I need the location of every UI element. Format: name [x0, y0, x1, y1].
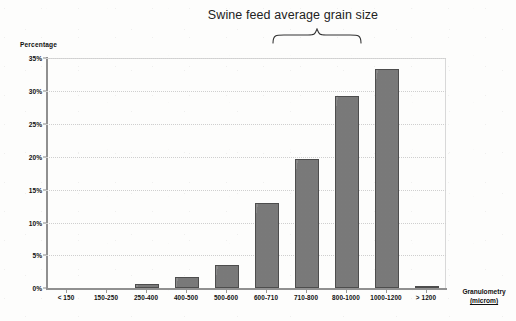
x-tick-mark [146, 290, 147, 293]
x-tick-mark [426, 290, 427, 293]
x-tick-mark [66, 290, 67, 293]
x-tick-mark [266, 290, 267, 293]
bar-slot [87, 58, 127, 288]
brace-annotation-icon [272, 28, 362, 44]
x-tick-mark [346, 290, 347, 293]
bar-series [47, 58, 446, 288]
bar-slot [407, 58, 447, 288]
bar[interactable] [135, 284, 159, 289]
x-tick-label: > 1200 [398, 294, 454, 301]
bar-slot [247, 58, 287, 288]
x-tick-mark [106, 290, 107, 293]
x-tick-mark [386, 290, 387, 293]
x-axis-title-text: Granulometry [452, 287, 516, 296]
y-axis-title: Percentage [20, 41, 57, 48]
bar[interactable] [215, 265, 239, 288]
bar-slot [287, 58, 327, 288]
x-tick-mark [306, 290, 307, 293]
chart-title: Swine feed average grain size [0, 8, 516, 22]
x-tick-mark [226, 290, 227, 293]
bar-slot [47, 58, 87, 288]
bar[interactable] [415, 286, 439, 289]
y-tick-mark [43, 255, 46, 256]
y-tick-mark [43, 189, 46, 190]
bar-slot [207, 58, 247, 288]
bar[interactable] [295, 159, 319, 289]
y-tick-mark [43, 156, 46, 157]
bar-slot [127, 58, 167, 288]
y-tick-mark [43, 222, 46, 223]
x-tick-mark [186, 290, 187, 293]
y-tick-mark [43, 90, 46, 91]
bar[interactable] [255, 203, 279, 289]
x-axis-title: Granulometry (microm) [452, 287, 516, 305]
y-tick-mark [43, 58, 46, 59]
plot-area: 0%5%10%15%20%25%30%35% [46, 58, 446, 290]
bar[interactable] [375, 69, 399, 289]
y-tick-mark [43, 288, 46, 289]
bar-slot [327, 58, 367, 288]
x-axis-unit-text: (microm) [452, 296, 516, 305]
bar-slot [367, 58, 407, 288]
chart-page: Swine feed average grain size Percentage… [0, 0, 516, 321]
bar[interactable] [335, 96, 359, 288]
bar-slot [167, 58, 207, 288]
bar[interactable] [175, 277, 199, 289]
y-tick-mark [43, 123, 46, 124]
